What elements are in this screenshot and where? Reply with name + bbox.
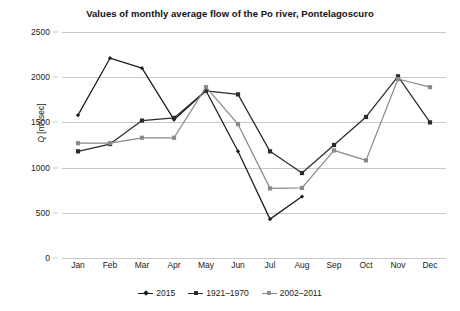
data-point-marker xyxy=(428,120,432,124)
series-3 xyxy=(76,77,432,191)
legend-label: 2002–2011 xyxy=(280,288,322,298)
y-tick-mark xyxy=(53,77,58,78)
data-point-marker xyxy=(236,122,240,126)
chart-title: Values of monthly average flow of the Po… xyxy=(0,8,460,19)
data-point-marker xyxy=(76,141,80,145)
data-point-marker xyxy=(428,85,432,89)
series-line xyxy=(78,79,430,188)
series-lines xyxy=(62,32,446,258)
x-tick-label: Aug xyxy=(294,260,309,270)
x-tick-label: Mar xyxy=(135,260,150,270)
series-line xyxy=(78,58,302,219)
data-point-marker xyxy=(268,149,272,153)
x-tick-label: May xyxy=(198,260,214,270)
y-tick-label: 2000 xyxy=(31,72,50,82)
x-tick-label: Feb xyxy=(103,260,118,270)
data-point-marker xyxy=(268,186,272,190)
x-tick-label: Sep xyxy=(326,260,341,270)
data-point-marker xyxy=(236,92,240,96)
y-tick-label: 0 xyxy=(45,253,50,263)
data-point-marker xyxy=(140,136,144,140)
series-2 xyxy=(76,74,432,175)
data-point-marker xyxy=(172,116,176,120)
y-tick-mark xyxy=(53,212,58,213)
data-point-marker xyxy=(332,143,336,147)
y-tick-label: 500 xyxy=(36,208,50,218)
legend-swatch-icon xyxy=(262,289,277,298)
data-point-marker xyxy=(172,136,176,140)
data-point-marker xyxy=(364,115,368,119)
gridline xyxy=(62,258,446,259)
data-point-marker xyxy=(332,148,336,152)
y-tick-mark xyxy=(53,32,58,33)
legend-label: 1921–1970 xyxy=(206,288,249,298)
y-tick-mark xyxy=(53,258,58,259)
legend-item-1[interactable]: 2015 xyxy=(138,288,175,298)
data-point-marker xyxy=(140,118,144,122)
legend-swatch-icon xyxy=(188,289,203,298)
series-1 xyxy=(76,56,304,221)
y-axis-ticks: 05001000150020002500 xyxy=(0,32,58,258)
y-tick-label: 1500 xyxy=(31,117,50,127)
x-tick-label: Oct xyxy=(359,260,372,270)
legend-item-2[interactable]: 1921–1970 xyxy=(188,288,249,298)
y-tick-label: 1000 xyxy=(31,163,50,173)
chart-container: Values of monthly average flow of the Po… xyxy=(0,0,460,311)
y-tick-label: 2500 xyxy=(31,27,50,37)
series-line xyxy=(78,76,430,173)
x-tick-label: Nov xyxy=(390,260,405,270)
y-tick-mark xyxy=(53,122,58,123)
data-point-marker xyxy=(204,85,208,89)
data-point-marker xyxy=(108,141,112,145)
data-point-marker xyxy=(396,77,400,81)
x-tick-label: Apr xyxy=(167,260,180,270)
legend-swatch-icon xyxy=(138,289,153,298)
data-point-marker xyxy=(300,186,304,190)
data-point-marker xyxy=(300,171,304,175)
x-tick-label: Dec xyxy=(422,260,437,270)
y-tick-mark xyxy=(53,167,58,168)
x-axis-ticks: JanFebMarAprMayJunJulAugSepOctNovDec xyxy=(62,260,446,278)
data-point-marker xyxy=(76,149,80,153)
x-tick-label: Jun xyxy=(231,260,245,270)
chart-legend: 20151921–19702002–2011 xyxy=(0,288,460,298)
legend-item-3[interactable]: 2002–2011 xyxy=(262,288,322,298)
x-tick-label: Jul xyxy=(265,260,276,270)
plot-area xyxy=(62,32,446,258)
data-point-marker xyxy=(364,158,368,162)
x-tick-label: Jan xyxy=(71,260,85,270)
legend-label: 2015 xyxy=(156,288,175,298)
